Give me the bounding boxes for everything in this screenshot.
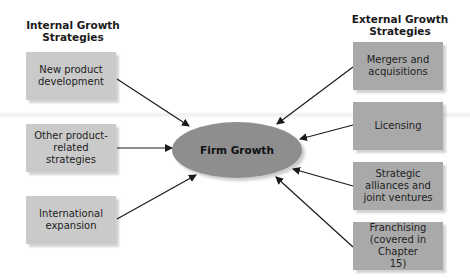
internal-other-product-related: Other product-related strategies [26,124,116,172]
internal-international-expansion: International expansion [26,196,116,244]
internal-new-product-development: New product development [26,52,116,100]
firm-growth-ellipse: Firm Growth [172,122,302,178]
external-licensing: Licensing [353,102,443,150]
external-mergers-acquisitions: Mergers and acquisitions [353,42,443,90]
external-strategic-alliances: Strategic alliances and joint ventures [353,162,443,210]
external-franchising: Franchising (covered in Chapter 15) [353,222,443,270]
